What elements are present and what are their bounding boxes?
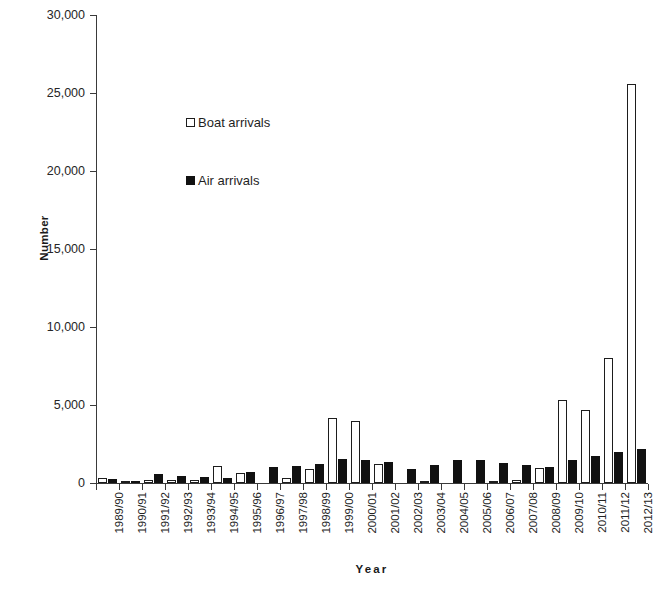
bar-group <box>119 15 142 483</box>
y-axis-tick-label: 10,000 <box>47 319 85 335</box>
x-axis-tick-label: 1996/97 <box>274 492 286 552</box>
y-axis-tick-label: 20,000 <box>47 163 85 179</box>
bar-boat-arrivals <box>328 418 337 483</box>
bar-group <box>418 15 441 483</box>
bar-group <box>602 15 625 483</box>
x-axis-tick-mark <box>234 484 235 490</box>
bar-air-arrivals <box>361 460 370 483</box>
x-axis-tick-mark <box>648 484 649 490</box>
bar-group <box>303 15 326 483</box>
bar-group <box>211 15 234 483</box>
bar-group <box>625 15 648 483</box>
bar-boat-arrivals <box>604 358 613 483</box>
x-axis-tick-mark <box>441 484 442 490</box>
x-axis-tick-label: 2010/11 <box>596 492 608 552</box>
bar-group <box>556 15 579 483</box>
x-axis-tick-mark <box>533 484 534 490</box>
bar-air-arrivals <box>407 469 416 483</box>
x-axis-tick-mark <box>119 484 120 490</box>
x-axis-tick-labels: 1989/901990/911991/921992/931993/941994/… <box>96 492 648 552</box>
bar-boat-arrivals <box>98 478 107 483</box>
bar-group <box>326 15 349 483</box>
x-axis-tick-mark <box>418 484 419 490</box>
bar-boat-arrivals <box>627 84 636 483</box>
bar-boat-arrivals <box>236 473 245 483</box>
y-axis-ticks: 05,00010,00015,00020,00025,00030,000 <box>0 0 96 589</box>
x-axis-tick-label: 1992/93 <box>182 492 194 552</box>
bar-air-arrivals <box>522 465 531 483</box>
bar-group <box>234 15 257 483</box>
bar-air-arrivals <box>545 467 554 483</box>
x-axis-tick-label: 2005/06 <box>481 492 493 552</box>
bar-group <box>579 15 602 483</box>
x-axis-tick-mark <box>487 484 488 490</box>
x-axis-title: Year <box>96 563 648 575</box>
bar-air-arrivals <box>338 459 347 483</box>
x-axis-tick-label: 2004/05 <box>458 492 470 552</box>
bar-boat-arrivals <box>282 478 291 483</box>
x-axis-tick-mark <box>165 484 166 490</box>
bar-group <box>188 15 211 483</box>
x-axis-tick-mark <box>602 484 603 490</box>
x-axis-tick-label: 2003/04 <box>435 492 447 552</box>
x-axis-tick-label: 2000/01 <box>366 492 378 552</box>
bar-group <box>487 15 510 483</box>
x-axis-tick-mark <box>510 484 511 490</box>
x-axis-tick-mark <box>349 484 350 490</box>
bar-boat-arrivals <box>512 480 521 483</box>
bar-boat-arrivals <box>558 400 567 483</box>
bar-chart: Number 05,00010,00015,00020,00025,00030,… <box>0 0 654 589</box>
bar-air-arrivals <box>246 472 255 483</box>
legend-item: Air arrivals <box>186 173 259 188</box>
x-axis-tick-mark <box>395 484 396 490</box>
x-axis-tick-label: 2012/13 <box>642 492 654 552</box>
bar-air-arrivals <box>154 474 163 483</box>
x-axis-tick-label: 1997/98 <box>297 492 309 552</box>
bar-boat-arrivals <box>420 481 429 483</box>
x-axis-tick-label: 1995/96 <box>251 492 263 552</box>
x-axis-tick-label: 2007/08 <box>527 492 539 552</box>
x-axis-tick-label: 2006/07 <box>504 492 516 552</box>
bar-boat-arrivals <box>213 466 222 483</box>
bar-air-arrivals <box>499 463 508 483</box>
x-axis-tick-label: 2002/03 <box>412 492 424 552</box>
bar-group <box>533 15 556 483</box>
x-axis-tick-label: 2009/10 <box>573 492 585 552</box>
bar-boat-arrivals <box>305 469 314 484</box>
bar-air-arrivals <box>177 476 186 483</box>
bar-air-arrivals <box>200 477 209 483</box>
bar-group <box>257 15 280 483</box>
hollow-square-icon <box>186 118 195 127</box>
x-axis-tick-label: 1999/00 <box>343 492 355 552</box>
bar-group <box>142 15 165 483</box>
x-axis-tick-label: 1989/90 <box>113 492 125 552</box>
x-axis-tick-label: 1998/99 <box>320 492 332 552</box>
x-axis-tick-mark <box>464 484 465 490</box>
x-axis-tick-mark <box>625 484 626 490</box>
x-axis-tick-mark <box>211 484 212 490</box>
bar-group <box>395 15 418 483</box>
x-axis-tick-label: 2011/12 <box>619 492 631 552</box>
bar-group <box>96 15 119 483</box>
bar-group <box>464 15 487 483</box>
bar-air-arrivals <box>384 462 393 483</box>
bar-air-arrivals <box>108 479 117 483</box>
x-axis-tick-mark <box>257 484 258 490</box>
bar-air-arrivals <box>568 460 577 483</box>
x-axis-tick-label: 1994/95 <box>228 492 240 552</box>
bar-group <box>372 15 395 483</box>
y-axis-tick-label: 15,000 <box>47 241 85 257</box>
bar-boat-arrivals <box>374 464 383 483</box>
bar-group <box>510 15 533 483</box>
bar-boat-arrivals <box>489 481 498 483</box>
y-axis-tick-label: 25,000 <box>47 85 85 101</box>
bar-air-arrivals <box>430 465 439 483</box>
bar-group <box>441 15 464 483</box>
legend-item-label: Boat arrivals <box>198 115 270 130</box>
x-axis-ticks <box>96 484 648 492</box>
bar-group <box>349 15 372 483</box>
y-axis-tick-label: 0 <box>78 475 85 491</box>
bar-air-arrivals <box>476 460 485 483</box>
x-axis-tick-label: 1993/94 <box>205 492 217 552</box>
bar-air-arrivals <box>269 467 278 483</box>
